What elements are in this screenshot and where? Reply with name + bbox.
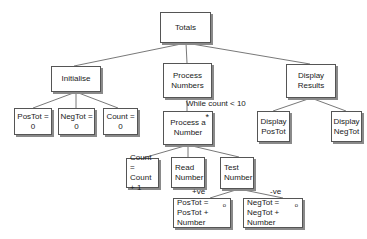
node-label: Test Number [224,163,252,183]
node-process-numbers: Process Numbers [163,63,212,98]
node-label: Count = Count + 1 [130,153,158,193]
node-label: NegTot = 0 [59,112,94,132]
node-label: Totals [175,23,196,33]
negative-branch-label: -ve [270,187,281,197]
node-label: Display Results [298,71,325,91]
node-display-negtot: Display NegTot [331,111,362,142]
node-display-results: Display Results [286,64,336,98]
node-label: Display PosTot [260,117,286,137]
node-negtot-add: NegTot = NegTot + Number o [243,198,303,228]
node-label: PosTot = 0 [15,112,51,132]
node-label: Display NegTot [333,117,359,137]
loop-condition-label: While count < 10 [186,99,246,109]
node-read-number: Read Number [171,157,205,188]
node-process-a-number: Process a Number * [163,111,213,145]
node-initialise: Initialise [51,66,101,92]
node-label: Count = 0 [104,112,137,132]
node-display-postot: Display PosTot [257,111,290,142]
node-postot-add: PosTot = PosTot + Number o [173,198,231,228]
node-label: Read Number [175,163,203,183]
node-count-increment: Count = Count + 1 [126,158,159,188]
node-negtot-zero: NegTot = 0 [58,108,95,135]
selection-marker-icon: o [295,201,298,210]
node-label: Process Numbers [171,71,203,91]
iteration-marker-icon: * [205,113,209,122]
node-postot-zero: PosTot = 0 [14,108,52,135]
selection-marker-icon: o [223,201,226,210]
node-test-number: Test Number [220,157,254,189]
node-label: Initialise [62,74,91,84]
node-count-zero: Count = 0 [103,108,138,135]
positive-branch-label: +ve [192,187,205,197]
node-totals: Totals [160,12,211,43]
node-label: Process a Number [170,118,206,138]
